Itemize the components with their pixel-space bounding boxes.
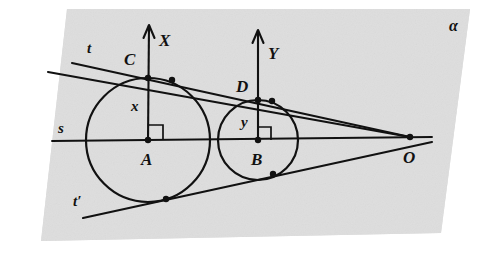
diagram-canvas xyxy=(0,0,478,254)
point-dot-c xyxy=(145,75,151,81)
point-dot-a xyxy=(145,137,151,143)
segment-label-x: x xyxy=(131,99,139,114)
axis-label-y: Y xyxy=(268,45,278,62)
point-label-d: D xyxy=(236,78,248,95)
plane-label-alpha: α xyxy=(449,18,458,34)
point-dot-d xyxy=(255,97,261,103)
point-label-c: C xyxy=(124,51,135,68)
point-dot-b xyxy=(255,137,261,143)
axis-line-x xyxy=(148,25,149,140)
point-label-a: A xyxy=(141,151,152,168)
geometry-figure: α A B C D O X Y x y t s t′ xyxy=(0,0,478,254)
point-dot-o xyxy=(407,134,413,140)
point-dot-tangency-lower-a xyxy=(163,196,169,202)
plane-alpha-grain xyxy=(41,9,470,241)
line-label-t: t xyxy=(87,41,91,56)
axis-label-x: X xyxy=(159,32,170,49)
point-label-o: O xyxy=(403,149,415,166)
point-dot-tangency-upper-b xyxy=(269,98,275,104)
point-dot-tangency-upper-a xyxy=(169,77,175,83)
point-dot-tangency-lower-b xyxy=(270,171,276,177)
segment-label-y: y xyxy=(241,115,248,130)
line-label-t-prime: t′ xyxy=(73,194,81,209)
line-label-s: s xyxy=(58,121,64,136)
point-label-b: B xyxy=(251,151,262,168)
